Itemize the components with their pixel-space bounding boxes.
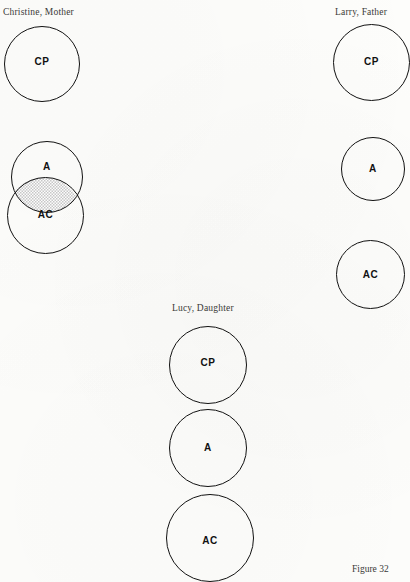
ego-circle-christine-a	[11, 141, 83, 213]
ego-circle-label-christine-ac: AC	[7, 210, 84, 220]
ego-circle-label-lucy-cp: CP	[169, 358, 247, 368]
ego-circle-label-larry-cp: CP	[333, 57, 410, 67]
ego-circle-label-christine-cp: CP	[4, 57, 80, 67]
person-label-lucy: Lucy, Daughter	[172, 304, 234, 314]
figure-caption: Figure 32	[352, 565, 389, 575]
ego-circle-label-lucy-ac: AC	[166, 536, 254, 546]
ego-circle-label-larry-a: A	[341, 164, 405, 174]
ego-circle-label-christine-a: A	[11, 162, 83, 172]
figure-page: Christine, Mother CP	[0, 0, 410, 582]
person-label-larry: Larry, Father	[335, 8, 387, 18]
ego-circle-label-lucy-a: A	[169, 443, 247, 453]
person-label-christine: Christine, Mother	[3, 8, 74, 18]
ego-circle-label-larry-ac: AC	[336, 270, 405, 280]
